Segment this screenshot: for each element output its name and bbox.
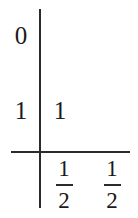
fraction-numerator: 1 [95,157,129,182]
horizontal-rule [11,151,130,153]
bottom-fraction-second: 1 2 [95,157,129,214]
fraction-denominator: 2 [95,189,129,214]
fraction-bar [104,184,121,186]
bottom-fraction-first: 1 2 [47,157,81,214]
body-cell-value: 1 [47,98,73,123]
vertical-rule [39,9,41,208]
fraction-bar [56,184,73,186]
math-table-figure: 0 1 1 1 2 1 2 [0,0,138,218]
fraction-numerator: 1 [47,157,81,182]
fraction-denominator: 2 [47,189,81,214]
row-label-top: 0 [10,23,32,48]
row-label-bottom: 1 [10,98,32,123]
